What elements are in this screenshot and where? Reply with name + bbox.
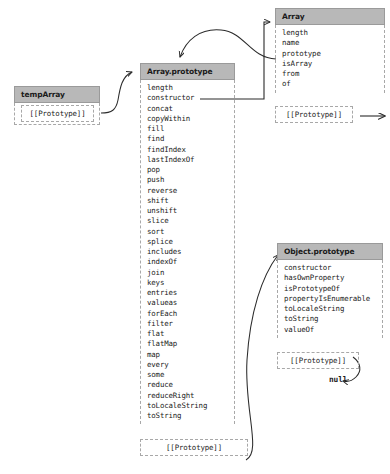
- object-box-temparray[interactable]: tempArray [[Prototype]]: [14, 86, 100, 125]
- property-row[interactable]: toString: [284, 314, 377, 324]
- object-header-temparray: tempArray: [14, 86, 100, 103]
- prototype-slot-wrap-object-prototype: [[Prototype]]: [277, 350, 359, 369]
- property-row[interactable]: lastIndexOf: [147, 155, 229, 165]
- property-row[interactable]: valueas: [147, 298, 229, 308]
- property-row[interactable]: keys: [147, 278, 229, 288]
- property-row[interactable]: includes: [147, 247, 229, 257]
- property-row[interactable]: sort: [147, 227, 229, 237]
- property-row[interactable]: unshift: [147, 206, 229, 216]
- property-row[interactable]: findIndex: [147, 145, 229, 155]
- property-row[interactable]: toLocaleString: [284, 304, 377, 314]
- arrow-temparray-to-arrayprototype: [101, 72, 132, 113]
- property-row[interactable]: length: [147, 83, 229, 93]
- property-row[interactable]: slice: [147, 216, 229, 226]
- property-row[interactable]: indexOf: [147, 257, 229, 267]
- prototype-slot-wrap-array-prototype: [[Prototype]]: [140, 437, 248, 456]
- property-row[interactable]: length: [282, 28, 379, 38]
- property-row[interactable]: of: [282, 79, 379, 89]
- property-row[interactable]: concat: [147, 104, 229, 114]
- property-row[interactable]: splice: [147, 237, 229, 247]
- object-body-temparray: [[Prototype]]: [14, 103, 100, 125]
- object-box-array[interactable]: Array lengthnameprototypeisArrayfromof: [275, 8, 385, 93]
- property-row[interactable]: toLocaleString: [147, 401, 229, 411]
- property-row[interactable]: constructor: [284, 263, 377, 273]
- property-row[interactable]: constructor: [147, 93, 229, 103]
- property-row[interactable]: join: [147, 268, 229, 278]
- diagram-canvas: tempArray [[Prototype]] Array.prototype …: [0, 0, 390, 474]
- property-row[interactable]: every: [147, 360, 229, 370]
- property-row[interactable]: flat: [147, 329, 229, 339]
- prototype-slot-wrap-array: [[Prototype]]: [275, 104, 353, 123]
- property-row[interactable]: isPrototypeOf: [284, 284, 377, 294]
- null-label: null: [329, 375, 347, 384]
- property-row[interactable]: filter: [147, 319, 229, 329]
- object-box-array-prototype[interactable]: Array.prototype lengthconstructorconcatc…: [140, 63, 235, 424]
- prototype-slot-temparray[interactable]: [[Prototype]]: [21, 105, 94, 122]
- property-row[interactable]: pop: [147, 165, 229, 175]
- property-row[interactable]: prototype: [282, 49, 379, 59]
- property-row[interactable]: some: [147, 370, 229, 380]
- property-row[interactable]: propertyIsEnumerable: [284, 294, 377, 304]
- prototype-slot-object-prototype[interactable]: [[Prototype]]: [277, 352, 359, 369]
- object-body-object-prototype: constructorhasOwnPropertyisPrototypeOfpr…: [277, 260, 383, 338]
- object-body-array: lengthnameprototypeisArrayfromof: [275, 25, 385, 93]
- property-row[interactable]: toString: [147, 411, 229, 421]
- property-row[interactable]: flatMap: [147, 339, 229, 349]
- property-row[interactable]: reduce: [147, 380, 229, 390]
- property-row[interactable]: hasOwnProperty: [284, 273, 377, 283]
- property-row[interactable]: valueOf: [284, 325, 377, 335]
- property-row[interactable]: reverse: [147, 186, 229, 196]
- arrow-arrayprototype-to-objectprototype: [246, 255, 278, 460]
- object-header-array-prototype: Array.prototype: [140, 63, 235, 80]
- object-body-array-prototype: lengthconstructorconcatcopyWithinfillfin…: [140, 80, 235, 424]
- property-row[interactable]: fill: [147, 124, 229, 134]
- property-row[interactable]: shift: [147, 196, 229, 206]
- object-box-object-prototype[interactable]: Object.prototype constructorhasOwnProper…: [277, 243, 383, 338]
- property-row[interactable]: isArray: [282, 59, 379, 69]
- property-row[interactable]: copyWithin: [147, 114, 229, 124]
- arrow-array-prototype-to-arrayprototype: [180, 30, 276, 59]
- property-row[interactable]: map: [147, 350, 229, 360]
- prototype-slot-array[interactable]: [[Prototype]]: [275, 106, 353, 123]
- property-row[interactable]: name: [282, 38, 379, 48]
- prototype-slot-array-prototype[interactable]: [[Prototype]]: [140, 439, 248, 456]
- property-row[interactable]: entries: [147, 288, 229, 298]
- property-row[interactable]: reduceRight: [147, 391, 229, 401]
- object-header-array: Array: [275, 8, 385, 25]
- property-row[interactable]: find: [147, 134, 229, 144]
- property-row[interactable]: forEach: [147, 309, 229, 319]
- property-row[interactable]: push: [147, 175, 229, 185]
- object-header-object-prototype: Object.prototype: [277, 243, 383, 260]
- property-row[interactable]: from: [282, 69, 379, 79]
